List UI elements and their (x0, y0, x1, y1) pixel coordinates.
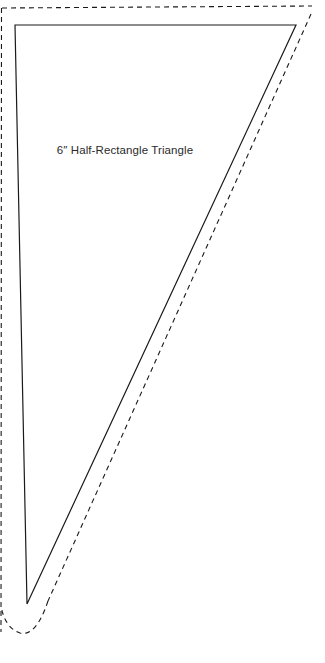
dashed-top-edge-line (2, 6, 312, 8)
half-rectangle-triangle-shape (15, 25, 296, 604)
pattern-drawing (0, 0, 325, 663)
template-sheet: 6″ Half-Rectangle Triangle (0, 0, 325, 663)
piece-label: 6″ Half-Rectangle Triangle (0, 143, 250, 157)
dashed-left-edge-line (1, 8, 2, 632)
dashed-bottom-curve (1, 601, 48, 633)
